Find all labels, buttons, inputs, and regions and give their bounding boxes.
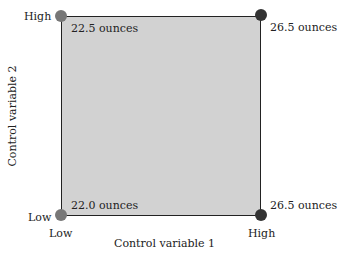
y-axis-title: Control variable 2 (6, 65, 19, 166)
x-high-label: High (248, 228, 275, 239)
corner-point-high-high (255, 9, 267, 21)
corner-point-high-low (255, 209, 267, 221)
value-high-high: 26.5 ounces (270, 22, 337, 33)
x-low-label: Low (49, 228, 72, 239)
value-high-low: 26.5 ounces (270, 200, 337, 211)
y-high-label: High (24, 11, 51, 22)
value-low-high: 22.5 ounces (71, 23, 138, 34)
corner-point-low-low (55, 209, 67, 221)
y-low-label: Low (28, 212, 51, 223)
value-low-low: 22.0 ounces (71, 200, 138, 211)
x-axis-title: Control variable 1 (114, 238, 215, 249)
design-square (61, 16, 261, 216)
corner-point-low-high (55, 10, 67, 22)
